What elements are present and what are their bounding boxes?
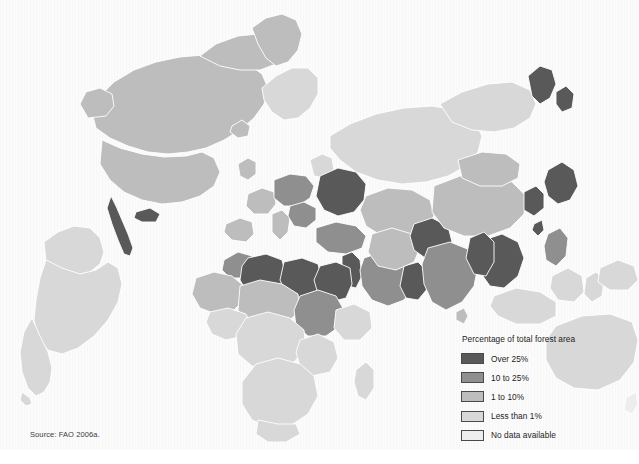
region-north-america[interactable] (80, 14, 302, 256)
region-iberia[interactable] (224, 218, 254, 242)
source-note: Source: FAO 2006a. (30, 430, 100, 439)
region-tierra-del-fuego[interactable] (20, 392, 32, 406)
legend-swatch-nodata (461, 430, 484, 441)
legend-label-1to10: 1 to 10% (491, 392, 524, 402)
legend-item-over25[interactable]: Over 25% (461, 349, 633, 368)
region-central-america[interactable] (107, 196, 133, 256)
region-italy[interactable] (272, 210, 290, 240)
legend-item-10to25[interactable]: 10 to 25% (461, 368, 633, 387)
region-madagascar[interactable] (354, 362, 374, 400)
legend-swatch-lessthan1 (461, 411, 484, 422)
legend-swatch-over25 (461, 353, 484, 364)
legend-label-10to25: 10 to 25% (491, 373, 529, 383)
region-philippines[interactable] (544, 228, 568, 266)
region-korea[interactable] (524, 186, 544, 216)
region-british-isles[interactable] (238, 158, 256, 180)
legend-label-lessthan1: Less than 1% (491, 411, 542, 421)
region-papua-new-guinea[interactable] (598, 260, 638, 290)
legend-item-lessthan1[interactable]: Less than 1% (461, 407, 633, 426)
legend-label-nodata: No data available (491, 430, 556, 440)
region-sakhalin[interactable] (556, 86, 574, 112)
legend-item-nodata[interactable]: No data available (461, 426, 633, 445)
region-france-benelux[interactable] (246, 188, 276, 214)
legend-swatch-1to10 (461, 391, 484, 402)
legend-title: Percentage of total forest area (462, 334, 633, 344)
region-ukraine-belarus[interactable] (316, 168, 366, 216)
legend-item-1to10[interactable]: 1 to 10% (461, 387, 633, 406)
region-brazil[interactable] (34, 260, 122, 354)
region-south-america[interactable] (20, 226, 122, 406)
region-scandinavia[interactable] (262, 68, 318, 120)
legend-swatch-10to25 (461, 372, 484, 383)
region-balkans[interactable] (288, 202, 316, 228)
island-caribbean (134, 208, 160, 222)
region-sumatra-java[interactable] (490, 288, 556, 324)
region-borneo[interactable] (550, 268, 584, 302)
region-central-europe[interactable] (274, 174, 314, 206)
island-sri-lanka (456, 308, 468, 324)
region-horn-of-africa[interactable] (334, 304, 372, 340)
region-turkey[interactable] (316, 222, 366, 254)
legend-label-over25: Over 25% (491, 354, 528, 364)
forest-area-map-figure: Source: FAO 2006a. Percentage of total f… (0, 0, 639, 464)
region-japan[interactable] (544, 162, 578, 204)
map-legend: Percentage of total forest area Over 25%… (461, 334, 633, 445)
island-taiwan (532, 220, 544, 236)
